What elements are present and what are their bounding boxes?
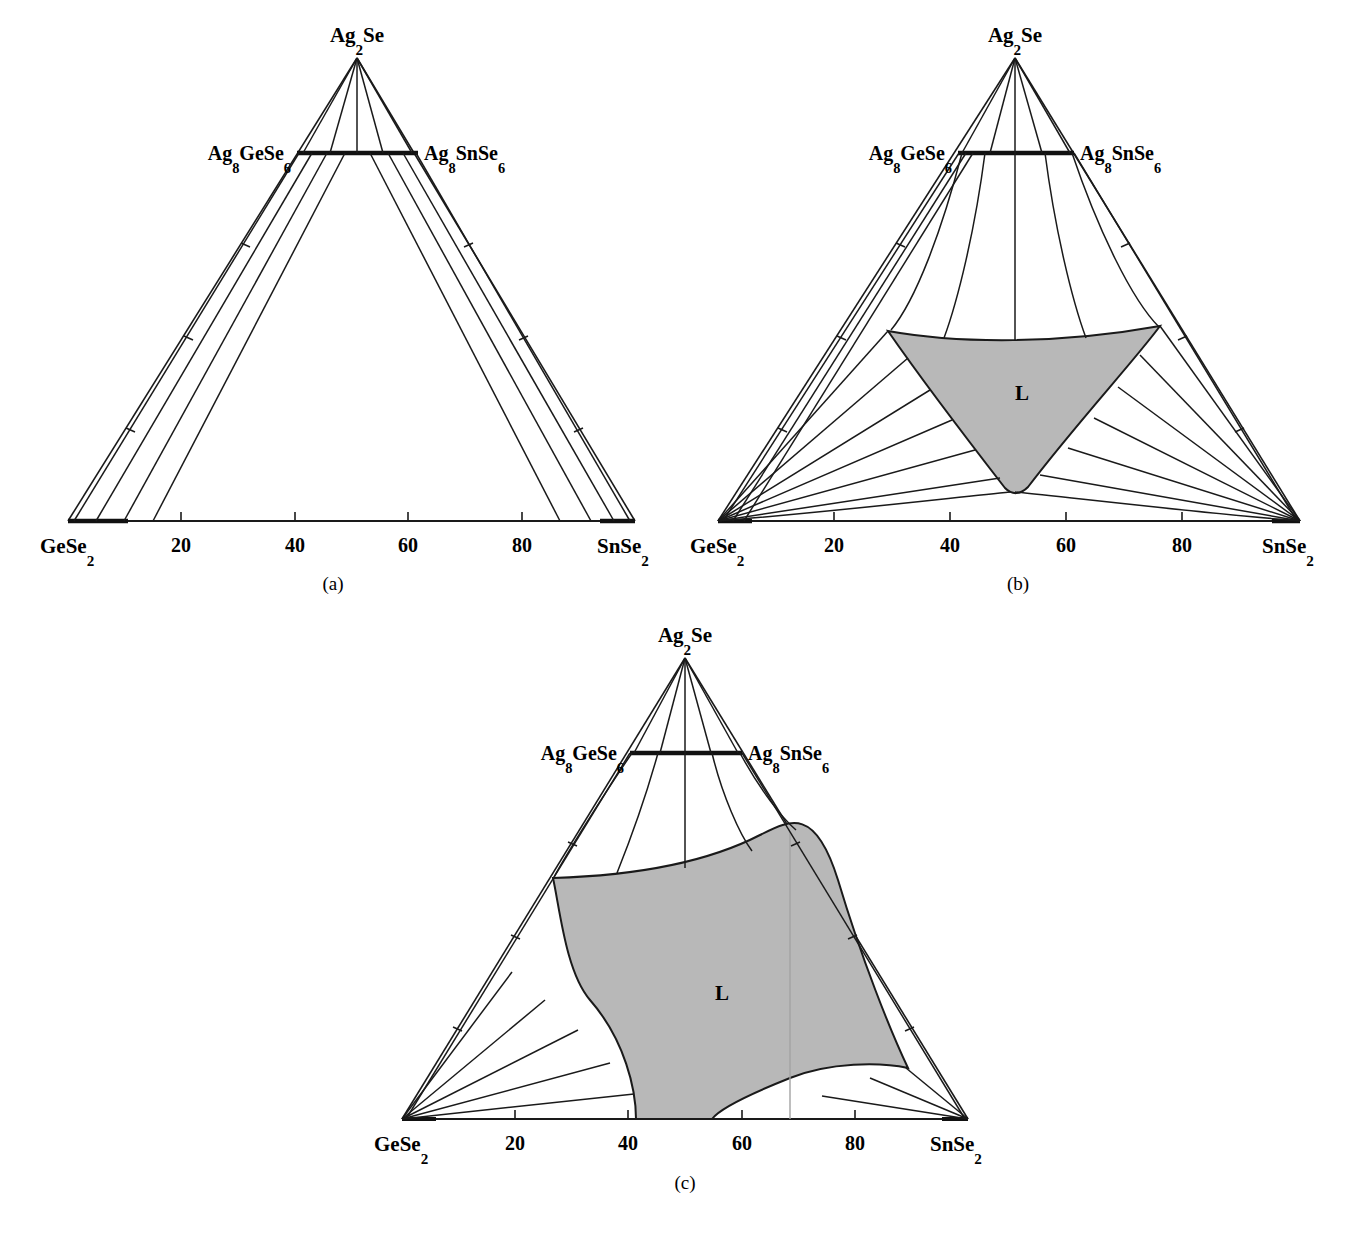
panel-c-tick-label-40: 40 (618, 1132, 638, 1154)
panel-b-tick-label-20: 20 (824, 534, 844, 556)
panel-c-liquid-phase-label: L (715, 981, 729, 1005)
panel-c-tick-label-80: 80 (845, 1132, 865, 1154)
panel-a-caption: (a) (322, 573, 343, 595)
panel-b-caption: (b) (1007, 573, 1029, 595)
panel-b-tick-label-80: 80 (1172, 534, 1192, 556)
panel-c-tick-label-20: 20 (505, 1132, 525, 1154)
panel-c-tick-label-60: 60 (732, 1132, 752, 1154)
panel-b-tick-label-60: 60 (1056, 534, 1076, 556)
panel-b-tick-label-40: 40 (940, 534, 960, 556)
panel-a-tick-label-20: 20 (171, 534, 191, 556)
panel-a-tick-label-80: 80 (512, 534, 532, 556)
panel-a-tick-label-40: 40 (285, 534, 305, 556)
panel-b-liquid-phase-label: L (1015, 381, 1029, 405)
panel-a-tick-label-60: 60 (398, 534, 418, 556)
ternary-phase-diagram-figure: Ag2Se GeSe2 SnSe2 Ag8GeSe6 Ag8SnSe6 20 4… (0, 0, 1359, 1235)
panel-c-caption: (c) (674, 1172, 695, 1194)
